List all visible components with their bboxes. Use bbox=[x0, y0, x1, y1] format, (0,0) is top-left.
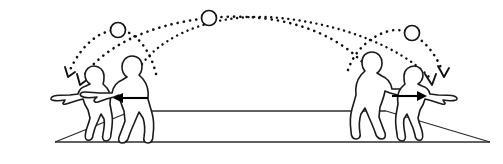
ball-left-icon bbox=[111, 23, 126, 38]
diagram-canvas bbox=[0, 0, 503, 164]
ball-center-icon bbox=[202, 11, 217, 26]
trajectory-long-right-arrowhead bbox=[425, 74, 436, 85]
ball-group bbox=[111, 11, 420, 41]
diagram-svg bbox=[0, 0, 503, 164]
trajectory-long-right bbox=[142, 17, 430, 78]
ball-right-icon bbox=[405, 26, 420, 41]
child-left-body bbox=[51, 66, 112, 141]
figure-child-left bbox=[51, 66, 112, 141]
trajectory-short-right-arrowhead bbox=[438, 66, 449, 77]
